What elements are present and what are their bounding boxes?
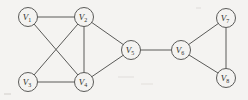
node-subscript-v7: 7	[226, 18, 229, 24]
graph-node-v6[interactable]: V6	[172, 41, 191, 60]
graph-edge-v2-v5	[92, 22, 123, 44]
node-subscript-v6: 6	[181, 50, 184, 56]
scan-artifact	[4, 93, 11, 95]
graph-node-v3[interactable]: V3	[19, 73, 38, 92]
node-subscript-v4: 4	[84, 82, 87, 88]
graph-edge-v4-v5	[92, 55, 123, 76]
graph-figure: V1V2V3V4V5V6V7V8	[0, 0, 248, 100]
graph-edge-v6-v7	[189, 24, 219, 45]
graph-node-v8[interactable]: V8	[217, 69, 236, 88]
scan-artifact	[118, 76, 134, 78]
graph-node-v7[interactable]: V7	[217, 9, 236, 28]
node-subscript-v1: 1	[28, 17, 31, 23]
graph-node-v5[interactable]: V5	[122, 41, 141, 60]
graph-canvas: V1V2V3V4V5V6V7V8	[0, 0, 248, 100]
node-subscript-v3: 3	[28, 82, 31, 88]
nodes-layer: V1V2V3V4V5V6V7V8	[19, 8, 236, 92]
graph-edge-v6-v8	[189, 55, 218, 73]
graph-node-v4[interactable]: V4	[75, 73, 94, 92]
node-subscript-v5: 5	[131, 50, 134, 56]
scan-artifact	[141, 83, 153, 85]
scan-artifact	[196, 7, 201, 9]
node-subscript-v2: 2	[84, 17, 87, 23]
node-subscript-v8: 8	[226, 78, 229, 84]
graph-node-v2[interactable]: V2	[75, 8, 94, 27]
graph-node-v1[interactable]: V1	[19, 8, 38, 27]
